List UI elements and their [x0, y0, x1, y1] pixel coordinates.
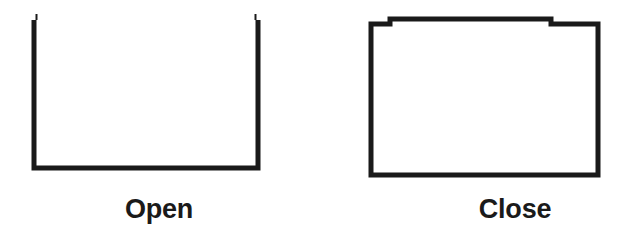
- figure-caption-close: Close: [318, 192, 636, 226]
- close-container-outline: [371, 19, 598, 175]
- open-container-outline: [34, 20, 258, 168]
- open-container-u-shape: [0, 0, 318, 190]
- figure-caption-open: Open: [0, 192, 320, 226]
- figure-panel-open: Open: [0, 0, 318, 240]
- diagram-canvas: Open Close: [0, 0, 636, 240]
- closed-container-rectangle: [318, 0, 636, 190]
- figure-panel-close: Close: [318, 0, 636, 240]
